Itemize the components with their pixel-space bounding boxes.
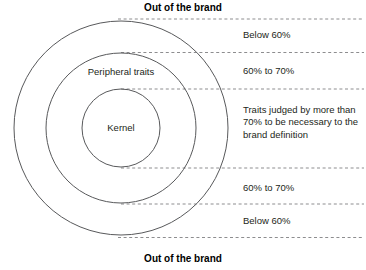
band-label-60-to-70-bottom: 60% to 70% — [243, 182, 361, 194]
kernel-label: Kernel — [0, 122, 242, 133]
out-of-brand-bottom-label: Out of the brand — [0, 253, 366, 264]
band-label-kernel-description: Traits judged by more than 70% to be nec… — [243, 104, 361, 141]
concentric-brand-diagram: Out of the brand Out of the brand Periph… — [0, 0, 366, 270]
peripheral-traits-label: Peripheral traits — [0, 66, 242, 77]
band-label-below-60-top: Below 60% — [243, 29, 361, 41]
out-of-brand-top-label: Out of the brand — [0, 2, 366, 13]
band-label-60-to-70-top: 60% to 70% — [243, 65, 361, 77]
band-label-below-60-bottom: Below 60% — [243, 215, 361, 227]
